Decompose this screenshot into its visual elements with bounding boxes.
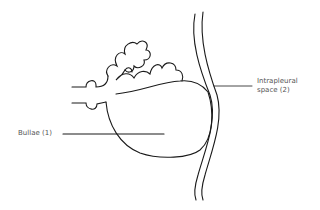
bullae-label-text: Bullae (1)	[18, 129, 52, 137]
intrapleural-label: Intrapleural space (2)	[257, 77, 298, 95]
bullae-label: Bullae (1)	[18, 129, 52, 138]
intrapleural-label-line1: Intrapleural	[257, 77, 298, 86]
bulla-outline	[106, 81, 212, 158]
alveoli-cluster	[107, 41, 183, 81]
bullae-diagram	[0, 0, 320, 210]
diagram-canvas: Bullae (1) Intrapleural space (2)	[0, 0, 320, 210]
intrapleural-label-line2: space (2)	[257, 86, 298, 95]
pleura-inner-line	[202, 12, 219, 200]
airway-lower	[72, 102, 106, 109]
airway-upper	[72, 76, 108, 87]
